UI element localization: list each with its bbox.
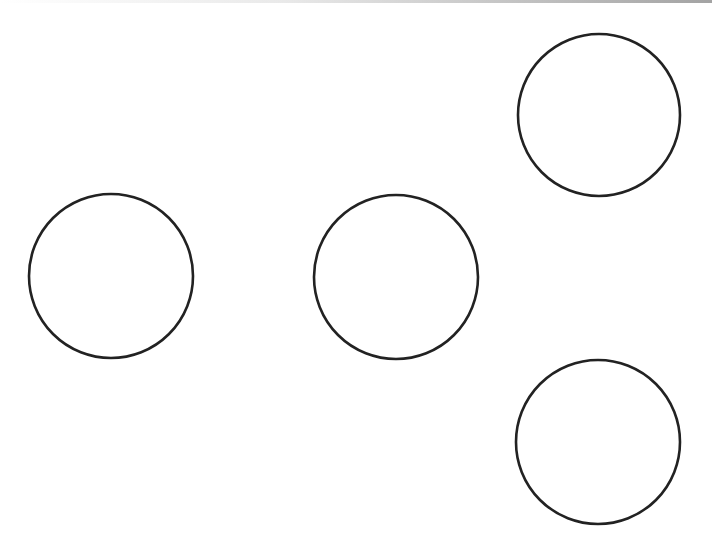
- circle-left: [29, 194, 193, 358]
- circle-top-right: [518, 34, 680, 196]
- diagram-canvas: [0, 0, 712, 550]
- circle-bottom-right: [516, 360, 680, 524]
- circle-middle: [314, 195, 478, 359]
